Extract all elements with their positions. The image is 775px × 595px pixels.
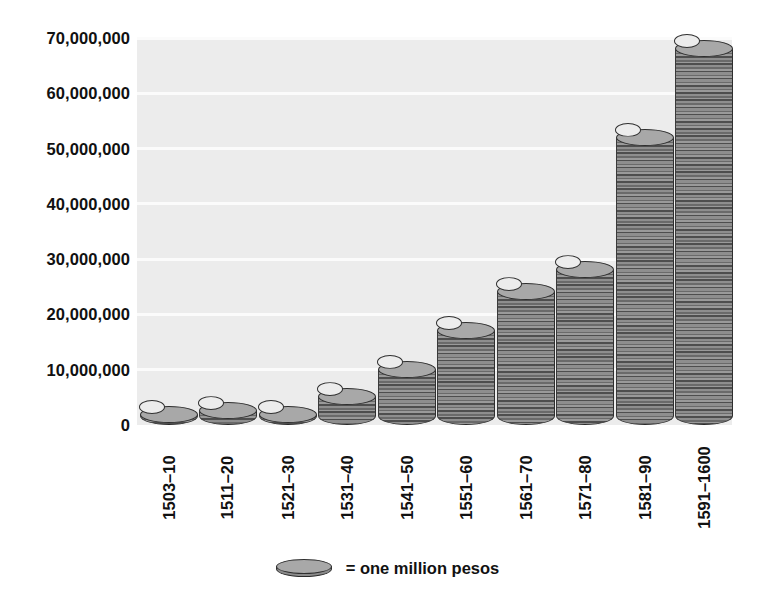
legend-label: = one million pesos bbox=[346, 559, 500, 578]
bar bbox=[318, 388, 376, 425]
legend: = one million pesos bbox=[0, 548, 775, 588]
y-axis-tick-label: 10,000,000 bbox=[0, 360, 130, 379]
x-axis-tick: 1581–90 bbox=[616, 430, 674, 548]
coin-stack-body bbox=[437, 331, 495, 425]
coin-notch bbox=[615, 123, 641, 137]
coin-stack-body bbox=[616, 138, 674, 425]
coin-notch bbox=[139, 400, 165, 414]
coin-icon-top bbox=[276, 559, 332, 574]
bar bbox=[497, 283, 555, 425]
y-axis-tick-label: 30,000,000 bbox=[0, 250, 130, 269]
bar bbox=[556, 261, 614, 425]
coin-stack-body bbox=[675, 49, 733, 425]
y-axis-tick-label: 60,000,000 bbox=[0, 84, 130, 103]
y-axis-tick-label: 70,000,000 bbox=[0, 29, 130, 48]
coin-stack-body bbox=[378, 370, 436, 425]
bar bbox=[199, 402, 257, 425]
x-axis-tick-label: 1581–90 bbox=[636, 455, 655, 519]
coin-notch bbox=[377, 355, 403, 369]
x-axis-tick-label: 1551–60 bbox=[457, 455, 476, 519]
x-axis-tick: 1531–40 bbox=[318, 430, 376, 548]
coin-notch bbox=[674, 34, 700, 48]
y-axis-labels: 010,000,00020,000,00030,000,00040,000,00… bbox=[0, 38, 130, 425]
y-axis-tick-label: 20,000,000 bbox=[0, 305, 130, 324]
x-axis-tick-label: 1541–50 bbox=[398, 455, 417, 519]
x-axis-tick: 1591–1600 bbox=[675, 430, 733, 548]
x-axis-tick: 1571–80 bbox=[556, 430, 614, 548]
x-axis-tick-label: 1511–20 bbox=[219, 456, 238, 519]
x-axis-tick: 1551–60 bbox=[437, 430, 495, 548]
x-axis-tick-label: 1591–1600 bbox=[695, 446, 714, 529]
bar bbox=[616, 129, 674, 425]
x-axis-labels: 1503–101511–201521–301531–401541–501551–… bbox=[137, 430, 732, 550]
x-axis-tick-label: 1503–10 bbox=[160, 455, 179, 519]
coin-stack-body bbox=[556, 270, 614, 425]
x-axis-tick-label: 1521–30 bbox=[279, 455, 298, 519]
x-axis-tick: 1511–20 bbox=[199, 430, 257, 548]
x-axis-tick-label: 1571–80 bbox=[576, 455, 595, 519]
coin-stack-body bbox=[497, 292, 555, 425]
x-axis-tick: 1521–30 bbox=[259, 430, 317, 548]
chart-canvas: 010,000,00020,000,00030,000,00040,000,00… bbox=[0, 0, 775, 595]
bar bbox=[437, 322, 495, 425]
y-axis-tick-label: 40,000,000 bbox=[0, 194, 130, 213]
coin-icon bbox=[276, 559, 332, 577]
x-axis-tick: 1503–10 bbox=[140, 430, 198, 548]
coin-notch bbox=[436, 316, 462, 330]
y-axis-tick-label: 0 bbox=[0, 416, 130, 435]
x-axis-tick-label: 1561–70 bbox=[517, 455, 536, 519]
coin-notch bbox=[258, 400, 284, 414]
bar bbox=[675, 40, 733, 425]
bar bbox=[259, 406, 317, 425]
y-axis-tick-label: 50,000,000 bbox=[0, 139, 130, 158]
bar-series bbox=[137, 38, 732, 425]
bar bbox=[378, 361, 436, 425]
x-axis-tick: 1561–70 bbox=[497, 430, 555, 548]
x-axis-tick-label: 1531–40 bbox=[338, 455, 357, 519]
bar bbox=[140, 406, 198, 425]
x-axis-tick: 1541–50 bbox=[378, 430, 436, 548]
